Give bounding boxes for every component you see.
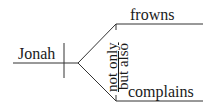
conjunction-part-2: but also [116,43,131,90]
predicate-word-bottom: complains [128,84,194,100]
sentence-diagram: Jonah frowns complains not only but also [0,0,212,111]
subject-word: Jonah [18,46,55,62]
predicate-word-top: frowns [130,7,174,23]
